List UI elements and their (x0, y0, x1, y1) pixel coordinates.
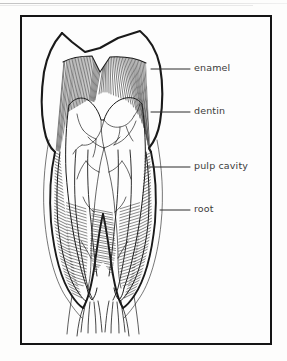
label-dentin: dentin (194, 106, 225, 116)
label-pulp-cavity: pulp cavity (194, 161, 248, 171)
tooth-cross-section-drawing (0, 0, 287, 361)
label-enamel: enamel (194, 63, 230, 73)
page-background: enamel dentin pulp cavity root (0, 0, 287, 361)
label-root: root (194, 204, 214, 214)
